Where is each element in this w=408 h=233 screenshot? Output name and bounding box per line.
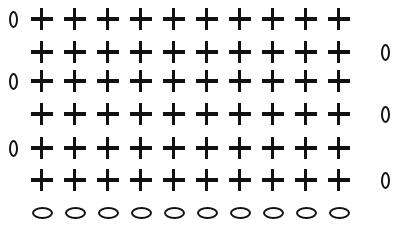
foundation-chain-icon [329, 207, 350, 219]
single-crochet-icon [31, 137, 53, 159]
single-crochet-icon [97, 8, 119, 30]
single-crochet-icon [31, 169, 53, 191]
single-crochet-icon [97, 70, 119, 92]
foundation-chain-icon [98, 207, 119, 219]
single-crochet-icon [97, 41, 119, 63]
single-crochet-icon [229, 169, 251, 191]
single-crochet-icon [130, 41, 152, 63]
single-crochet-icon [130, 8, 152, 30]
turning-chain-icon [381, 44, 390, 61]
single-crochet-icon [262, 137, 284, 159]
single-crochet-icon [31, 103, 53, 125]
single-crochet-icon [328, 41, 350, 63]
single-crochet-icon [64, 169, 86, 191]
single-crochet-icon [97, 169, 119, 191]
single-crochet-icon [196, 70, 218, 92]
single-crochet-icon [163, 137, 185, 159]
stitch-chart [0, 0, 408, 233]
single-crochet-icon [229, 70, 251, 92]
single-crochet-icon [328, 103, 350, 125]
turning-chain-icon [9, 73, 18, 90]
single-crochet-icon [295, 169, 317, 191]
single-crochet-icon [262, 41, 284, 63]
single-crochet-icon [229, 8, 251, 30]
single-crochet-icon [163, 41, 185, 63]
single-crochet-icon [295, 103, 317, 125]
single-crochet-icon [163, 103, 185, 125]
single-crochet-icon [163, 8, 185, 30]
single-crochet-icon [328, 137, 350, 159]
single-crochet-icon [130, 103, 152, 125]
single-crochet-icon [295, 41, 317, 63]
single-crochet-icon [97, 137, 119, 159]
single-crochet-icon [196, 103, 218, 125]
turning-chain-icon [381, 106, 390, 123]
turning-chain-icon [9, 11, 18, 28]
turning-chain-icon [381, 172, 390, 189]
single-crochet-icon [295, 8, 317, 30]
foundation-chain-icon [131, 207, 152, 219]
foundation-chain-icon [65, 207, 86, 219]
single-crochet-icon [64, 8, 86, 30]
single-crochet-icon [163, 169, 185, 191]
foundation-chain-icon [296, 207, 317, 219]
single-crochet-icon [130, 169, 152, 191]
single-crochet-icon [130, 137, 152, 159]
single-crochet-icon [262, 169, 284, 191]
foundation-chain-icon [32, 207, 53, 219]
single-crochet-icon [64, 137, 86, 159]
foundation-chain-icon [164, 207, 185, 219]
foundation-chain-icon [197, 207, 218, 219]
single-crochet-icon [295, 137, 317, 159]
single-crochet-icon [328, 169, 350, 191]
single-crochet-icon [196, 8, 218, 30]
single-crochet-icon [328, 70, 350, 92]
turning-chain-icon [9, 140, 18, 157]
single-crochet-icon [229, 103, 251, 125]
single-crochet-icon [130, 70, 152, 92]
single-crochet-icon [196, 169, 218, 191]
single-crochet-icon [196, 41, 218, 63]
single-crochet-icon [64, 103, 86, 125]
single-crochet-icon [64, 41, 86, 63]
single-crochet-icon [31, 70, 53, 92]
single-crochet-icon [31, 41, 53, 63]
single-crochet-icon [163, 70, 185, 92]
single-crochet-icon [328, 8, 350, 30]
single-crochet-icon [97, 103, 119, 125]
single-crochet-icon [262, 103, 284, 125]
single-crochet-icon [229, 137, 251, 159]
single-crochet-icon [229, 41, 251, 63]
single-crochet-icon [31, 8, 53, 30]
foundation-chain-icon [263, 207, 284, 219]
single-crochet-icon [262, 70, 284, 92]
foundation-chain-icon [230, 207, 251, 219]
single-crochet-icon [196, 137, 218, 159]
single-crochet-icon [64, 70, 86, 92]
single-crochet-icon [262, 8, 284, 30]
single-crochet-icon [295, 70, 317, 92]
